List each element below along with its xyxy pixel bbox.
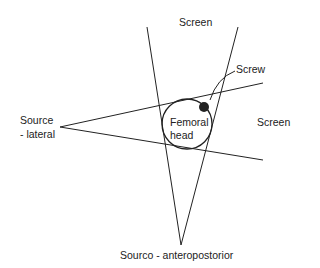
screen-top-label: Screen [179,16,212,28]
femoral-head-label-line1: Femoral [170,116,209,128]
screen-right-label: Screen [257,116,290,128]
screw-label: Screw [236,63,265,75]
source-lateral-label-line1: Source [20,114,53,126]
source-lateral-label-line2: - lateral [20,128,55,140]
source-ap-label: Sourco - anteropostorior [120,249,233,261]
lateral-beam-lower-edge [60,127,263,160]
screw-dot [199,102,209,112]
femoral-head-label-line2: head [170,129,193,141]
